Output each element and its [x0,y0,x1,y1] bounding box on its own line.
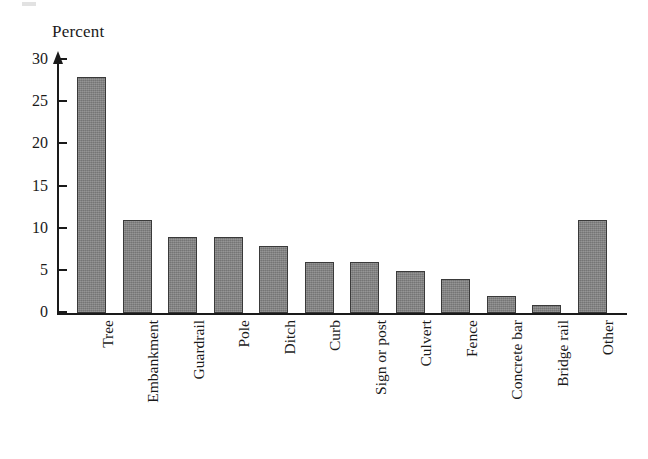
bar [532,305,561,313]
bar [168,237,197,313]
x-axis-label-text: Concrete bar [509,320,525,400]
bar [487,296,516,313]
y-axis-title: Percent [52,22,104,42]
x-axis-label: Sign or post [350,320,379,446]
x-axis-label: Culvert [396,320,425,446]
x-axis-label: Tree [77,320,106,446]
x-axis-label: Other [578,320,607,446]
x-axis-label: Embankment [123,320,152,446]
y-tick-label: 10 [32,220,48,236]
y-tick-label: 25 [32,93,48,109]
scan-artifact-speck [22,2,36,6]
x-axis-label: Bridge rail [532,320,561,446]
x-axis-label: Ditch [259,320,288,446]
x-axis-label-text: Embankment [145,320,161,403]
bar [259,246,288,313]
x-axis-category-labels: TreeEmbankmentGuardrailPoleDitchCurbSign… [57,320,627,450]
y-tick-label: 15 [32,178,48,194]
y-tick-label: 30 [32,51,48,67]
x-axis-label-text: Culvert [418,320,434,367]
x-axis-label-text: Guardrail [190,320,206,379]
plot-area: 051015202530 [57,55,627,315]
bar [578,220,607,313]
bar-series [57,60,627,313]
x-axis-label-text: Other [600,320,616,355]
bar [305,262,334,313]
x-axis-label-text: Ditch [281,320,297,354]
x-axis-label-text: Fence [463,320,479,357]
x-axis-label-text: Sign or post [372,320,388,395]
bar-chart-figure: Percent 051015202530 TreeEmbankmentGuard… [0,0,648,459]
bar [77,77,106,313]
x-axis-label-text: Tree [99,320,115,348]
bar [214,237,243,313]
x-axis-label: Guardrail [168,320,197,446]
x-axis-label-text: Bridge rail [554,320,570,387]
bar [396,271,425,313]
x-axis-label-text: Curb [327,320,343,351]
x-axis-label: Curb [305,320,334,446]
bar [441,279,470,313]
x-axis-label: Fence [441,320,470,446]
y-tick-label: 5 [40,262,48,278]
y-tick-label: 20 [32,135,48,151]
bar [123,220,152,313]
x-axis-label-text: Pole [236,320,252,348]
x-axis-label: Pole [214,320,243,446]
y-tick-label: 0 [40,304,48,320]
x-axis-line [57,313,627,315]
x-axis-label: Concrete bar [487,320,516,446]
bar [350,262,379,313]
